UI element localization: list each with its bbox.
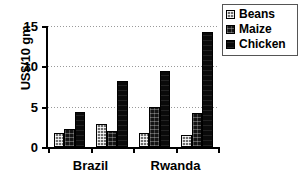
bar-maize-group1 bbox=[64, 129, 75, 147]
y-tick-mark bbox=[42, 107, 47, 109]
x-tick-mark bbox=[48, 147, 50, 153]
y-tick-mark bbox=[42, 26, 47, 28]
bar-maize-group3 bbox=[149, 107, 160, 147]
y-tick-label: 0 bbox=[0, 141, 38, 154]
bar-chart: US$/10 gm 051015 BrazilRwanda Beans Maiz… bbox=[0, 0, 301, 181]
bar-maize-group2 bbox=[107, 131, 118, 147]
bar-chicken-group2 bbox=[117, 81, 128, 147]
bar-beans-group4 bbox=[181, 135, 192, 147]
legend-item-maize: Maize bbox=[226, 22, 295, 36]
plot-area bbox=[46, 26, 218, 148]
x-tick-mark bbox=[91, 147, 93, 153]
y-tick-label: 15 bbox=[0, 20, 38, 33]
legend-label-maize: Maize bbox=[239, 23, 272, 35]
legend-swatch-maize-icon bbox=[226, 25, 235, 34]
bar-chicken-group1 bbox=[75, 112, 86, 147]
bar-chicken-group4 bbox=[202, 32, 213, 147]
x-tick-mark bbox=[176, 147, 178, 153]
x-tick-mark bbox=[218, 147, 220, 153]
bar-beans-group1 bbox=[54, 133, 65, 147]
bar-chicken-group3 bbox=[160, 71, 171, 147]
bar-maize-group4 bbox=[192, 113, 203, 147]
y-tick-mark bbox=[42, 66, 47, 68]
legend-item-beans: Beans bbox=[226, 7, 295, 21]
bar-series-container bbox=[48, 26, 218, 147]
bar-beans-group3 bbox=[139, 133, 150, 147]
y-tick-label: 5 bbox=[0, 101, 38, 114]
legend: Beans Maize Chicken bbox=[222, 4, 298, 56]
x-category-label-rwanda: Rwanda bbox=[131, 158, 221, 173]
y-tick-label: 10 bbox=[0, 60, 38, 73]
y-tick-mark bbox=[42, 147, 47, 149]
legend-label-beans: Beans bbox=[239, 8, 275, 20]
x-category-label-brazil: Brazil bbox=[46, 158, 136, 173]
legend-label-chicken: Chicken bbox=[239, 38, 286, 50]
x-tick-mark bbox=[133, 147, 135, 153]
legend-swatch-beans-icon bbox=[226, 10, 235, 19]
legend-item-chicken: Chicken bbox=[226, 37, 295, 51]
legend-swatch-chicken-icon bbox=[226, 40, 235, 49]
bar-beans-group2 bbox=[96, 124, 107, 147]
